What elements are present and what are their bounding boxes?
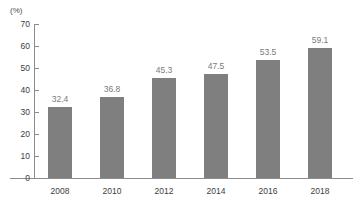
bar-value-label: 59.1 (294, 35, 346, 45)
x-axis-category-label: 2014 (190, 186, 242, 196)
bar-chart: (%) 010203040506070 32.4200836.8201045.3… (0, 0, 360, 206)
bars-layer: 32.4200836.8201045.3201247.5201453.52016… (0, 0, 360, 206)
bar-value-label: 36.8 (86, 84, 138, 94)
bar (100, 97, 124, 178)
x-axis-category-label: 2018 (294, 186, 346, 196)
bar-value-label: 45.3 (138, 65, 190, 75)
x-axis-category-label: 2008 (34, 186, 86, 196)
bar-value-label: 47.5 (190, 61, 242, 71)
x-axis-category-label: 2012 (138, 186, 190, 196)
bar (204, 74, 228, 179)
bar (152, 78, 176, 178)
bar (256, 60, 280, 178)
bar-value-label: 53.5 (242, 47, 294, 57)
x-axis-category-label: 2016 (242, 186, 294, 196)
bar-value-label: 32.4 (34, 94, 86, 104)
bar (308, 48, 332, 178)
x-axis-category-label: 2010 (86, 186, 138, 196)
bar (48, 107, 72, 178)
